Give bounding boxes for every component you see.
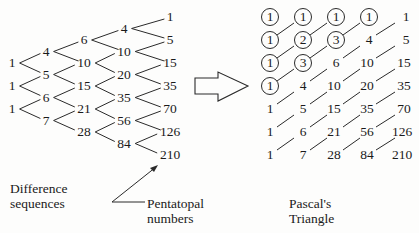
pascal-diagonal xyxy=(310,92,327,104)
pascal-diagonal xyxy=(376,46,395,58)
pascal-number: 35 xyxy=(397,79,411,93)
tree-connector xyxy=(95,77,115,87)
tree-connector xyxy=(95,86,115,96)
tree-connector xyxy=(95,63,115,73)
pascal-diagonal xyxy=(343,23,360,35)
diagram: 1114567610152128410203556841515357012621… xyxy=(0,0,419,233)
pascal-label-line1: Pascal's xyxy=(289,196,331,211)
pascal-diagonal xyxy=(277,46,294,58)
pascal-number: 15 xyxy=(397,56,411,70)
pascal-number: 1 xyxy=(403,10,410,24)
pascal-diagonal xyxy=(310,23,327,35)
pascal-label-line2: Triangle xyxy=(289,211,334,226)
pascal-number: 56 xyxy=(360,125,374,139)
tree-number: 1 xyxy=(167,10,174,24)
tree-connector xyxy=(135,42,164,52)
tree-connector xyxy=(54,42,79,52)
tree-connector xyxy=(54,65,75,75)
pascal-diagonal xyxy=(376,23,395,35)
tree-connector xyxy=(132,19,165,29)
tree-number: 35 xyxy=(163,79,177,93)
tree-number: 15 xyxy=(77,79,91,93)
tree-connector xyxy=(135,52,164,62)
tree-connector xyxy=(20,109,41,119)
tree-number: 7 xyxy=(43,114,50,128)
tree-connector xyxy=(54,88,75,98)
tree-connector xyxy=(132,29,165,39)
pascal-number: 1 xyxy=(267,79,274,93)
pascal-number: 28 xyxy=(327,148,341,162)
tree-number: 5 xyxy=(43,68,50,82)
pascal-diagonal xyxy=(343,138,360,150)
pascal-diagonal xyxy=(277,115,294,127)
pascal-diagonal xyxy=(310,138,327,150)
pascal-number: 3 xyxy=(333,33,340,47)
tree-connector xyxy=(54,52,79,62)
pascal-number: 35 xyxy=(360,102,374,116)
tree-number: 28 xyxy=(77,125,91,139)
pascal-number: 1 xyxy=(333,10,340,24)
tree-number: 126 xyxy=(160,125,180,139)
pascal-number: 1 xyxy=(267,33,274,47)
right-arrow-icon xyxy=(195,72,248,101)
pascal-number: 20 xyxy=(360,79,374,93)
pascal-number: 1 xyxy=(267,125,274,139)
difference-label-line1: Difference xyxy=(10,181,67,196)
tree-number: 10 xyxy=(117,45,131,59)
pascal-number: 1 xyxy=(366,10,373,24)
tree-connector xyxy=(135,98,161,108)
tree-connector xyxy=(135,134,157,144)
pascal-diagonal xyxy=(310,115,327,127)
tree-number: 1 xyxy=(9,102,16,116)
pascal-number: 4 xyxy=(300,79,307,93)
tree-number: 6 xyxy=(43,91,50,105)
tree-connector xyxy=(95,123,115,133)
pascal-number: 126 xyxy=(392,125,412,139)
tree-connector xyxy=(92,31,119,41)
pascal-number: 1 xyxy=(267,148,274,162)
tree-connector xyxy=(95,109,115,119)
tree-connector xyxy=(95,100,115,110)
pascal-number: 6 xyxy=(300,125,307,139)
pentatopal-label-line2: numbers xyxy=(147,211,194,226)
pascal-number: 5 xyxy=(300,102,307,116)
pascal-diagonal xyxy=(376,92,395,104)
tree-number: 56 xyxy=(117,114,131,128)
tree-connector xyxy=(95,54,115,64)
pascal-number: 5 xyxy=(403,33,410,47)
tree-number: 1 xyxy=(9,79,16,93)
pascal-diagonal xyxy=(343,46,360,58)
tree-number: 6 xyxy=(81,33,88,47)
pascal-number: 1 xyxy=(300,10,307,24)
pascal-number: 70 xyxy=(397,102,411,116)
pascal-number: 2 xyxy=(300,33,307,47)
pascal-number: 1 xyxy=(267,102,274,116)
pascal-number: 10 xyxy=(327,79,341,93)
pascal-number: 10 xyxy=(360,56,374,70)
pascal-diagonal xyxy=(343,92,360,104)
pentatopal-label-line1: Pentatopal xyxy=(147,196,204,211)
pascal-diagonal xyxy=(277,138,294,150)
tree-connector xyxy=(54,121,75,131)
tree-connector xyxy=(135,121,161,131)
tree-number: 4 xyxy=(43,45,50,59)
tree-connector xyxy=(54,111,75,121)
pascal-diagonal xyxy=(343,69,360,81)
pascal-number: 4 xyxy=(366,33,373,47)
tree-number: 21 xyxy=(77,102,91,116)
pascal-number: 6 xyxy=(333,56,340,70)
pascal-number: 1 xyxy=(267,56,274,70)
tree-number: 70 xyxy=(163,102,177,116)
pascal-diagonal xyxy=(277,92,294,104)
tree-number: 20 xyxy=(117,68,131,82)
pascal-diagonal xyxy=(310,46,327,58)
tree-connector xyxy=(135,111,161,121)
tree-connector xyxy=(20,100,41,110)
tree-connector xyxy=(135,88,161,98)
pascal-number: 3 xyxy=(300,56,307,70)
pascal-number: 84 xyxy=(360,148,374,162)
tree-connector xyxy=(20,77,41,87)
tree-number: 210 xyxy=(160,148,180,162)
pascal-diagonal xyxy=(376,69,395,81)
tree-connector xyxy=(135,144,157,154)
